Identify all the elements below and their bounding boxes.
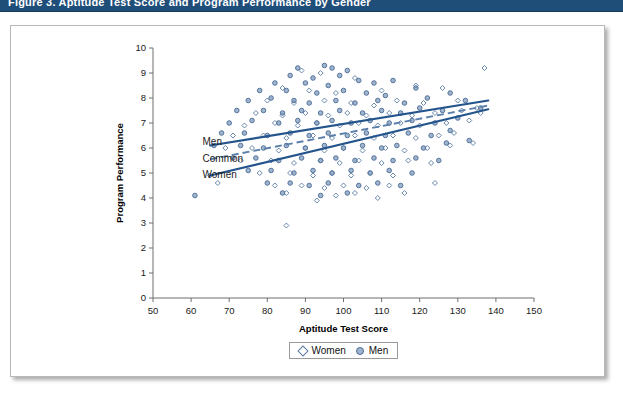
x-tick-label: 80 xyxy=(262,305,273,316)
data-point xyxy=(250,146,255,151)
data-point xyxy=(349,173,354,178)
data-point xyxy=(364,131,369,136)
y-tick-label: 3 xyxy=(141,217,146,228)
data-point xyxy=(402,148,407,153)
data-point xyxy=(371,103,376,108)
diamond-marker-icon xyxy=(297,345,308,356)
data-point xyxy=(436,158,441,163)
data-point xyxy=(341,88,346,93)
chart-plot-area: 0123456789105060708090100110120130140150… xyxy=(11,26,606,378)
data-point xyxy=(410,171,415,176)
data-point xyxy=(315,91,320,96)
data-point xyxy=(375,98,380,103)
legend-label-men: Men xyxy=(369,345,388,356)
data-point xyxy=(330,118,335,123)
series-women xyxy=(208,66,487,229)
y-tick-label: 6 xyxy=(141,142,146,153)
data-point xyxy=(261,108,266,113)
data-point xyxy=(314,198,319,203)
data-point xyxy=(311,173,316,178)
data-point xyxy=(227,121,232,126)
data-point xyxy=(413,136,418,141)
data-point xyxy=(235,108,240,113)
data-point xyxy=(345,191,350,196)
data-point xyxy=(463,98,468,103)
data-point xyxy=(307,88,312,93)
data-point xyxy=(467,118,472,123)
data-point xyxy=(417,106,422,111)
data-point xyxy=(455,98,460,103)
x-tick-label: 60 xyxy=(186,305,197,316)
y-tick-label: 5 xyxy=(141,167,146,178)
y-tick-label: 7 xyxy=(141,117,146,128)
data-point xyxy=(333,193,338,198)
data-point xyxy=(326,83,331,88)
data-point xyxy=(379,108,384,113)
data-point xyxy=(307,101,312,106)
data-point xyxy=(330,171,335,176)
data-point xyxy=(333,91,338,96)
data-point xyxy=(318,111,323,116)
data-point xyxy=(303,146,308,151)
legend-item-men[interactable]: Men xyxy=(356,345,388,356)
data-point xyxy=(337,73,342,78)
data-point xyxy=(311,168,316,173)
data-point xyxy=(257,171,262,176)
data-point xyxy=(223,146,228,151)
data-point xyxy=(295,123,300,128)
page-banner: Figure 3. Aptitude Test Score and Progra… xyxy=(0,0,623,12)
data-point xyxy=(372,156,377,161)
annotation-women: Women xyxy=(203,169,237,180)
data-point xyxy=(395,143,400,148)
data-point xyxy=(315,121,320,126)
data-point xyxy=(436,133,441,138)
data-point xyxy=(391,173,396,178)
data-point xyxy=(402,101,407,106)
data-point xyxy=(257,88,262,93)
data-point xyxy=(337,161,342,166)
data-point xyxy=(291,161,296,166)
data-point xyxy=(364,91,369,96)
data-point xyxy=(273,81,278,86)
data-point xyxy=(364,186,369,191)
data-point xyxy=(272,183,277,188)
data-point xyxy=(334,98,339,103)
data-point xyxy=(276,148,281,153)
data-point xyxy=(345,68,350,73)
data-point xyxy=(432,181,437,186)
data-point xyxy=(322,63,327,68)
data-point xyxy=(299,156,304,161)
data-point xyxy=(215,181,220,186)
data-point xyxy=(402,191,407,196)
legend-item-women[interactable]: Women xyxy=(299,345,346,356)
legend-label-women: Women xyxy=(312,345,346,356)
data-point xyxy=(269,168,274,173)
data-point xyxy=(299,183,304,188)
y-tick-label: 0 xyxy=(141,292,146,303)
data-point xyxy=(375,181,380,186)
y-tick-label: 2 xyxy=(141,242,146,253)
x-tick-label: 110 xyxy=(374,305,389,316)
data-point xyxy=(391,78,396,83)
data-point xyxy=(231,133,236,138)
data-point xyxy=(246,98,251,103)
data-point xyxy=(288,181,293,186)
data-point xyxy=(307,183,312,188)
data-point xyxy=(482,66,487,71)
data-point xyxy=(429,161,434,166)
data-point xyxy=(429,133,434,138)
data-point xyxy=(406,131,411,136)
data-point xyxy=(372,81,377,86)
data-point xyxy=(440,86,445,91)
data-point xyxy=(193,193,198,198)
data-point xyxy=(284,223,289,228)
y-tick-label: 8 xyxy=(141,92,146,103)
data-point xyxy=(387,168,392,173)
data-point xyxy=(360,143,365,148)
x-axis-title: Aptitude Test Score xyxy=(299,323,388,334)
data-point xyxy=(265,181,270,186)
data-point xyxy=(394,98,399,103)
y-tick-label: 1 xyxy=(141,267,146,278)
data-point xyxy=(375,196,380,201)
data-point xyxy=(383,93,388,98)
